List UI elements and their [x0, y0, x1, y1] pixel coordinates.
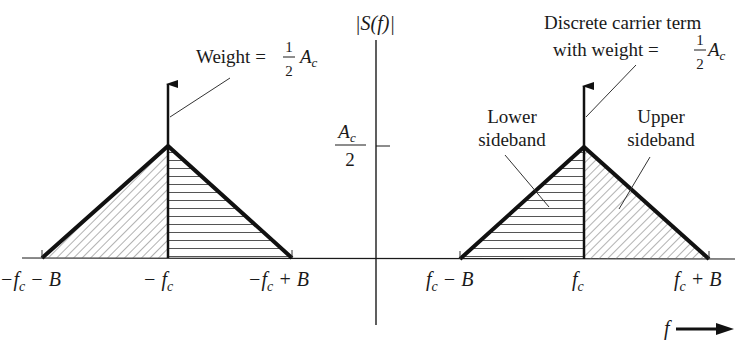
x-tick-pos-lower: fc − B — [426, 268, 474, 294]
carrier-leader — [586, 65, 636, 117]
negative-frequency-spectrum — [42, 78, 292, 258]
svg-text:f: f — [664, 317, 672, 340]
svg-text:Ac: Ac — [706, 39, 726, 63]
svg-text:Lower: Lower — [487, 106, 537, 127]
svg-text:with weight =: with weight = — [553, 39, 659, 60]
svg-text:Ac: Ac — [298, 46, 318, 70]
svg-text:2: 2 — [345, 149, 355, 170]
svg-text:Weight =: Weight = — [196, 46, 266, 67]
svg-text:Discrete carrier term: Discrete carrier term — [544, 12, 701, 33]
am-spectrum-diagram: |S(f)| Ac 2 Weight = 1 2 Ac Discrete car… — [0, 0, 746, 349]
x-tick-neg-lower: −fc − B — [0, 268, 61, 294]
svg-text:Ac: Ac — [336, 121, 356, 145]
svg-text:2: 2 — [696, 56, 704, 72]
lower-sideband-label: Lower sideband — [478, 106, 546, 150]
x-tick-neg-center: − fc — [143, 268, 174, 294]
svg-text:sideband: sideband — [478, 129, 546, 150]
svg-text:2: 2 — [285, 63, 293, 79]
frequency-direction-indicator: f — [664, 317, 734, 340]
left-weight-leader — [170, 78, 230, 117]
svg-text:Upper: Upper — [637, 106, 685, 127]
positive-frequency-spectrum — [460, 65, 709, 259]
svg-text:1: 1 — [696, 32, 704, 48]
x-tick-neg-upper: −fc + B — [248, 268, 309, 294]
carrier-annotation: Discrete carrier term with weight = 1 2 … — [544, 12, 726, 72]
y-axis-label: |S(f)| — [355, 12, 395, 35]
upper-sideband-label: Upper sideband — [627, 106, 695, 150]
tick-value-label: Ac 2 — [335, 121, 366, 170]
svg-text:sideband: sideband — [627, 129, 695, 150]
x-tick-pos-center: fc — [572, 268, 585, 294]
x-tick-pos-upper: fc + B — [674, 268, 722, 294]
svg-text:1: 1 — [285, 39, 293, 55]
left-weight-annotation: Weight = 1 2 Ac — [196, 39, 318, 79]
